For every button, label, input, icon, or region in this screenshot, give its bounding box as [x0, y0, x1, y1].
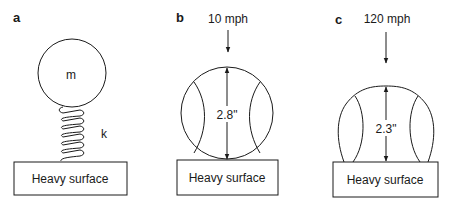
mass-label: m [66, 68, 76, 82]
ball-seam-right-b [250, 82, 261, 153]
spring-coil [59, 107, 84, 161]
panel-c: c 120 mph 2.3" Heavy surface [333, 12, 438, 197]
ball-seam-left-c [353, 96, 363, 162]
spring-constant-label: k [101, 127, 108, 141]
panel-c-letter: c [335, 12, 342, 27]
dimension-label-c: 2.3" [376, 122, 397, 136]
speed-label-c: 120 mph [364, 12, 411, 26]
dimension-label-b: 2.8" [217, 108, 238, 122]
ball-seam-left-b [194, 82, 205, 153]
ball-seam-right-c [410, 96, 420, 162]
panel-b: b 10 mph 2.8" Heavy surface [176, 10, 278, 195]
surface-label-b: Heavy surface [189, 171, 266, 185]
speed-label-b: 10 mph [208, 12, 248, 26]
surface-label-c: Heavy surface [347, 173, 424, 187]
figure-canvas: a m k Heavy surface b 10 mph 2.8" Heavy … [0, 0, 450, 208]
surface-label-a: Heavy surface [32, 172, 109, 186]
panel-b-letter: b [176, 10, 184, 25]
panel-a-letter: a [13, 10, 21, 25]
panel-a: a m k Heavy surface [13, 10, 127, 195]
